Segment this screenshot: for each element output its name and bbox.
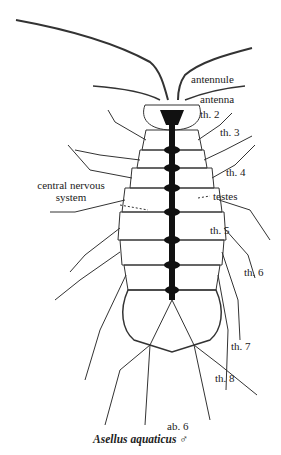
label-th7: th. 7 [231,340,251,352]
label-th8: th. 8 [215,372,235,384]
label-ab6: ab. 6 [167,420,188,432]
label-th2: th. 2 [200,108,220,120]
label-th6: th. 6 [244,266,264,278]
label-th3: th. 3 [220,126,240,138]
label-th5: th. 5 [210,224,230,236]
figure-caption: Asellus aquaticus ♂ [0,433,281,445]
label-testes: testes [213,190,237,202]
label-antenna: antenna [200,93,234,105]
label-th4: th. 4 [226,166,246,178]
isopod-drawing [0,0,281,455]
label-cns-line1: central nervous [37,179,105,191]
label-antennule: antennule [191,73,234,85]
label-cns-line2: system [56,191,87,203]
label-central-nervous-system: central nervous system [26,179,116,203]
